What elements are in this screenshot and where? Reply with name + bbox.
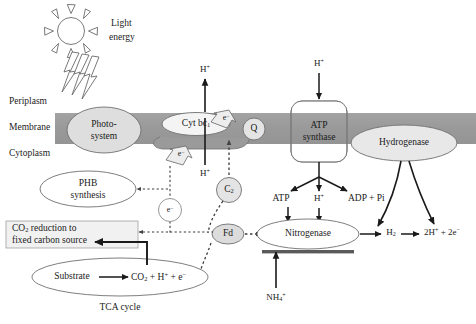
ferredoxin-label: Fd xyxy=(223,228,233,239)
co2-products-tail: + e xyxy=(168,272,182,282)
cyt-bc1-label-subscript: 1 xyxy=(207,121,210,128)
compartment-label-membrane: Membrane xyxy=(9,122,50,133)
compartment-label-cytoplasm: Cytoplasm xyxy=(9,148,50,159)
co2-reduction-label-co2: CO xyxy=(12,223,25,233)
atp-product-label: ATP xyxy=(273,193,290,204)
light-bolt-icons xyxy=(62,52,99,99)
electron-label-upper: e− xyxy=(223,113,230,123)
substrate-label: Substrate xyxy=(54,271,89,282)
electron-circle-label: e− xyxy=(167,205,174,215)
photosystem-label-line2: system xyxy=(91,131,117,142)
photosystem-complex[interactable] xyxy=(67,107,141,153)
proton-label-bottom: H+ xyxy=(200,168,210,178)
photosystem-label-line1: Photo- xyxy=(91,119,116,130)
proton-label-atp-top: H+ xyxy=(314,58,324,68)
quinone-label: Q xyxy=(251,123,258,134)
tca-cycle-caption: TCA cycle xyxy=(100,302,141,313)
cyt-bc1-label-text: Cyt bc xyxy=(182,118,207,128)
co2-products-pre: CO xyxy=(131,272,144,282)
co2-products-post: + H xyxy=(147,272,164,282)
co2-products-label: CO2 + H+ + e− xyxy=(131,271,186,282)
fd-branch-down-path xyxy=(200,243,211,272)
light-energy-label-line2: energy xyxy=(109,32,135,43)
hydrogenase-label: Hydrogenase xyxy=(379,137,429,148)
ammonium-label: NH4+ xyxy=(266,292,286,303)
adp-pi-label: ADP + Pi xyxy=(348,193,385,204)
co2-reduction-label-rest: reduction to xyxy=(28,223,76,233)
hydrogen-gas-label: H2 xyxy=(386,227,396,238)
phb-synthesis-node[interactable] xyxy=(40,171,136,207)
co2-reduction-label-line2: fixed carbon source xyxy=(12,235,87,247)
atp-synthase-label-line2: synthase xyxy=(303,132,336,143)
phb-synthesis-label-line2: synthesis xyxy=(71,190,106,201)
proton-label-atp-bottom: H+ xyxy=(314,193,324,203)
phb-synthesis-label-line1: PHB xyxy=(79,178,97,189)
proton-label-top: H+ xyxy=(200,64,210,74)
carrier-c2-label-subscript: 2 xyxy=(231,187,234,194)
co2-products-sup2: − xyxy=(182,271,186,278)
co2-reduction-label-line1: CO2 reduction to xyxy=(12,223,76,235)
compartment-label-periplasm: Periplasm xyxy=(9,96,47,107)
sun-icon xyxy=(45,5,98,58)
electron-label-lower: e− xyxy=(178,149,185,159)
diagram-canvas: Light energy Periplasm Membrane Cytoplas… xyxy=(0,0,476,324)
cyt-bc1-label: Cyt bc1 xyxy=(182,118,210,129)
protons-electrons-label: 2H+ + 2e− xyxy=(424,227,460,237)
nitrogenase-label: Nitrogenase xyxy=(285,228,331,239)
hydrogenase-arrows xyxy=(378,161,434,226)
atp-synthase-label-line1: ATP xyxy=(311,120,328,131)
light-energy-label-line1: Light xyxy=(111,18,132,29)
carrier-c2-label: C2 xyxy=(224,184,234,195)
